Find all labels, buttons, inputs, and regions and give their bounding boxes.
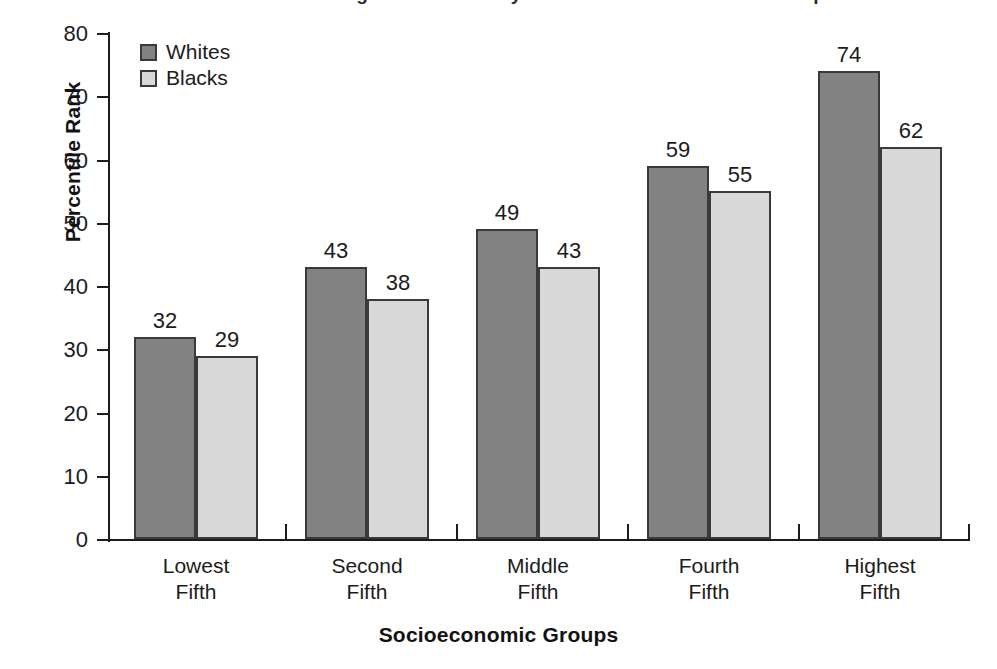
x-axis-category-label: LowestFifth [163,553,230,605]
y-axis-tick: 20 [97,413,108,415]
y-axis-tick: 70 [97,96,108,98]
bar-value-label: 59 [666,137,690,163]
y-axis-tick: 30 [97,349,108,351]
bar-blacks-highest-fifth[interactable]: 62 [880,147,942,539]
y-axis-tick: 60 [97,160,108,162]
bar-blacks-lowest-fifth[interactable]: 29 [196,356,258,539]
x-axis-category-label: MiddleFifth [507,553,569,605]
category-label-line-1: Fourth [679,554,740,577]
bar-value-label: 29 [215,327,239,353]
y-axis-tick: 80 [97,33,108,35]
bar-value-label: 74 [837,42,861,68]
category-label-line-2: Fifth [507,579,569,605]
x-axis-separator-tick [627,524,629,539]
category-label-line-2: Fifth [331,579,402,605]
x-axis-category-label: HighestFifth [844,553,915,605]
category-label-line-2: Fifth [163,579,230,605]
bar-blacks-second-fifth[interactable]: 38 [367,299,429,539]
bar-value-label: 43 [557,238,581,264]
legend-swatch-icon [140,44,157,61]
bar-value-label: 49 [495,200,519,226]
y-axis-tick-label: 0 [76,527,88,553]
category-label-line-1: Lowest [163,554,230,577]
category-label-line-1: Middle [507,554,569,577]
bar-blacks-middle-fifth[interactable]: 43 [538,267,600,539]
category-label-line-1: Second [331,554,402,577]
bar-whites-middle-fifth[interactable]: 49 [476,229,538,539]
legend: WhitesBlacks [140,39,230,91]
clipped-chart-title: Percentile Rank in Reading Achievement b… [0,0,997,9]
bar-value-label: 32 [153,308,177,334]
bar-value-label: 38 [386,270,410,296]
plot-area: 80706050403020100 32294338494359557462 W… [108,33,970,541]
y-axis-tick-label: 10 [64,464,88,490]
bar-whites-second-fifth[interactable]: 43 [305,267,367,539]
x-axis-title: Socioeconomic Groups [0,623,997,647]
y-axis-tick-label: 30 [64,337,88,363]
bar-blacks-fourth-fifth[interactable]: 55 [709,191,771,539]
bar-value-label: 43 [324,238,348,264]
x-axis-separator-tick [456,524,458,539]
x-axis-separator-tick [285,524,287,539]
legend-item-blacks[interactable]: Blacks [140,65,230,91]
x-axis-separator-tick [798,524,800,539]
y-axis-title: Percentile Rank [61,32,85,292]
category-label-line-2: Fifth [844,579,915,605]
bar-whites-highest-fifth[interactable]: 74 [818,71,880,539]
category-label-line-1: Highest [844,554,915,577]
clipped-chart-title-text: Percentile Rank in Reading Achievement b… [118,0,825,5]
x-axis-line [108,539,970,541]
x-axis-category-label: FourthFifth [679,553,740,605]
y-axis-tick: 0 [97,539,108,541]
y-axis-tick-label: 20 [64,401,88,427]
legend-swatch-icon [140,70,157,87]
category-label-line-2: Fifth [679,579,740,605]
y-axis-tick: 50 [97,223,108,225]
bar-whites-fourth-fifth[interactable]: 59 [647,166,709,539]
chart-page: Percentile Rank in Reading Achievement b… [0,0,997,669]
bar-whites-lowest-fifth[interactable]: 32 [134,337,196,539]
y-axis-line [108,32,110,542]
legend-item-whites[interactable]: Whites [140,39,230,65]
y-axis-tick: 10 [97,476,108,478]
x-axis-category-label: SecondFifth [331,553,402,605]
legend-label: Whites [166,40,230,64]
bar-value-label: 55 [728,162,752,188]
x-axis-end-tick [968,524,970,539]
bar-value-label: 62 [899,118,923,144]
y-axis-tick: 40 [97,286,108,288]
legend-label: Blacks [166,66,228,90]
